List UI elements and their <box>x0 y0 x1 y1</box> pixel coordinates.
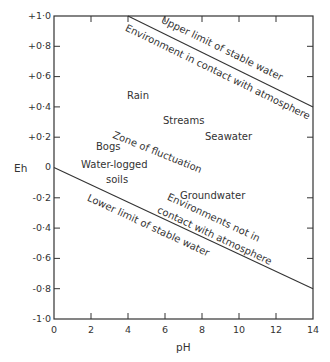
x-tick-label: 8 <box>199 325 205 335</box>
y-tick-label: +1·0 <box>28 11 51 21</box>
y-tick-label: -0·2 <box>32 193 51 203</box>
waterlogged-label: Water-logged <box>81 160 148 170</box>
y-tick-label: +0·2 <box>28 132 51 142</box>
y-axis-label: Eh <box>14 163 27 174</box>
y-tick-label: -0·6 <box>32 253 51 263</box>
x-tick-label: 6 <box>162 325 168 335</box>
x-tick-label: 14 <box>307 325 319 335</box>
x-ticks-bottom <box>91 313 276 319</box>
upper-limit-line <box>128 16 313 107</box>
x-axis-label: pH <box>176 342 191 353</box>
y-tick-label: +0·8 <box>28 41 51 51</box>
x-tick-label: 2 <box>88 325 94 335</box>
x-tick-label: 12 <box>270 325 282 335</box>
soils-label: soils <box>106 175 128 185</box>
bogs-label: Bogs <box>96 142 121 152</box>
y-tick-label: +0·6 <box>28 71 51 81</box>
x-tick-label: 10 <box>233 325 245 335</box>
lower-limit-line <box>54 168 313 289</box>
y-tick-label: -0·8 <box>32 284 51 294</box>
rain-label: Rain <box>127 91 149 101</box>
x-ticks-top <box>91 16 276 22</box>
y-tick-label: +0·4 <box>28 102 51 112</box>
streams-label: Streams <box>163 116 204 126</box>
plot-area <box>0 0 330 362</box>
y-tick-label: 0 <box>45 162 51 172</box>
x-tick-label: 4 <box>125 325 131 335</box>
seawater-label: Seawater <box>205 132 252 142</box>
y-tick-label: -1·0 <box>32 314 51 324</box>
y-ticks-right <box>307 46 313 258</box>
y-tick-label: -0·4 <box>32 223 51 233</box>
x-tick-label: 0 <box>51 325 57 335</box>
